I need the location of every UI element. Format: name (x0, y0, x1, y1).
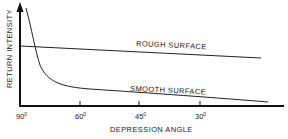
y-axis-arrow-icon (17, 2, 24, 12)
x-tick-label-60: 600 (75, 111, 86, 121)
rough-surface-label: ROUGH SURFACE (136, 39, 207, 51)
chart: ROUGH SURFACE SMOOTH SURFACE 900 600 450… (0, 0, 288, 139)
smooth-surface-label: SMOOTH SURFACE (130, 84, 206, 96)
x-tick-label-90: 900 (16, 111, 27, 121)
y-axis-title: RETURN INTENSITY (5, 9, 14, 88)
x-tick-label-30: 300 (195, 111, 206, 121)
x-axis-title: DEPRESSION ANGLE (110, 125, 193, 134)
x-tick-label-45: 450 (135, 111, 146, 121)
